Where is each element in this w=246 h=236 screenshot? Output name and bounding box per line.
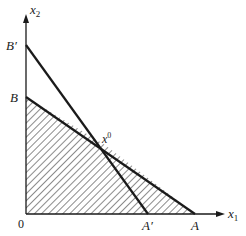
point-label-B-prime: B′ <box>6 38 17 53</box>
x2-axis-label: x2 <box>29 2 40 19</box>
lp-diagram: x2 x1 0 B′ B x0 A′ A <box>0 0 246 236</box>
point-label-x0: x0 <box>101 131 111 146</box>
point-label-A: A <box>190 218 199 233</box>
x1-axis-label: x1 <box>227 206 238 223</box>
x2-arrow-icon <box>23 14 29 23</box>
point-label-B: B <box>10 90 18 105</box>
x1-arrow-icon <box>216 211 225 217</box>
point-label-A-prime: A′ <box>141 218 153 233</box>
origin-label: 0 <box>18 217 24 231</box>
